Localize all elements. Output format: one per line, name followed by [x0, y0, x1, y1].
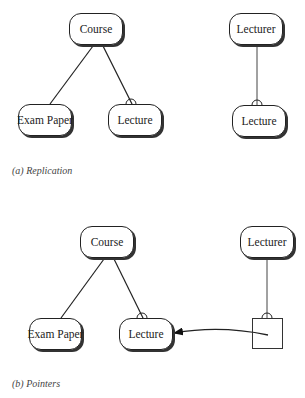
caption-pointers: (b) Pointers — [12, 378, 60, 389]
node-lecture-replica-a: Lecture — [232, 105, 286, 137]
node-lecture-a: Lecture — [108, 104, 162, 136]
node-exam-paper-a: Exam Paper — [18, 104, 72, 136]
link-course-exampaper-b — [61, 259, 104, 318]
caption-replication: (a) Replication — [12, 165, 72, 176]
pointer-square — [252, 318, 283, 349]
link-course-lecture-a — [103, 46, 132, 104]
node-lecturer-b: Lecturer — [240, 226, 294, 258]
link-course-exampaper-a — [50, 46, 93, 104]
node-lecturer-a: Lecturer — [229, 13, 283, 45]
node-course-a: Course — [69, 13, 123, 45]
node-course-b: Course — [80, 226, 134, 258]
link-course-lecture-b — [114, 259, 143, 318]
node-exam-paper-b: Exam Paper — [29, 318, 82, 350]
node-lecture-b: Lecture — [119, 318, 173, 350]
